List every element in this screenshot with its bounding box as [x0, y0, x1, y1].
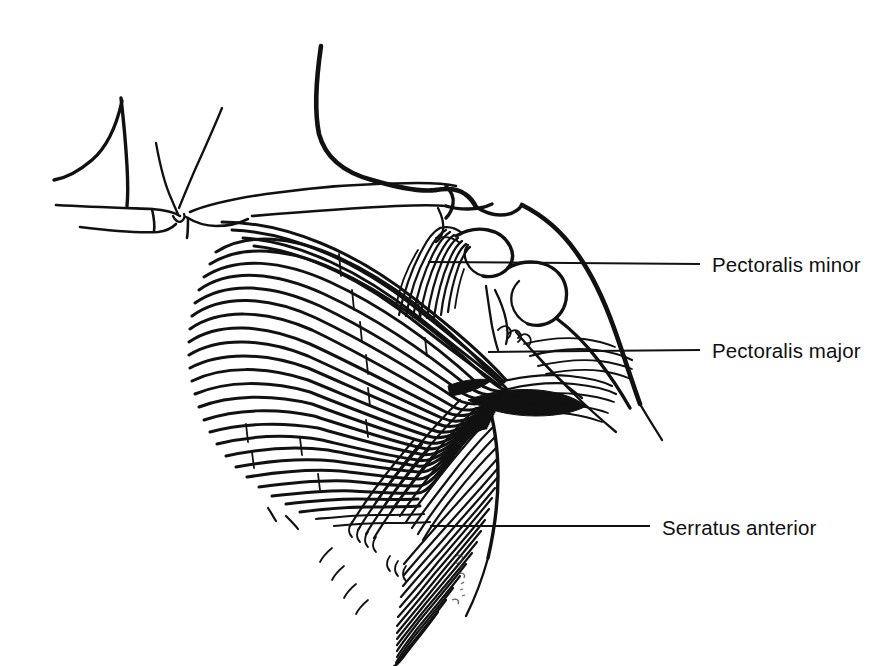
label-pectoralis-minor: Pectoralis minor	[712, 253, 861, 276]
sternoclavicular-joint-right	[187, 218, 188, 238]
label-pectoralis-major: Pectoralis major	[712, 339, 861, 362]
anatomy-figure: Pectoralis minor Pectoralis major Serrat…	[0, 0, 894, 666]
anatomy-illustration: Pectoralis minor Pectoralis major Serrat…	[0, 0, 894, 666]
label-serratus-anterior: Serratus anterior	[662, 516, 816, 539]
